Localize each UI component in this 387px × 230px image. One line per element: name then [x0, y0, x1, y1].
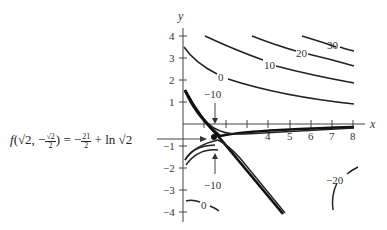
y-axis-label: y — [177, 9, 184, 23]
contour-0 — [184, 47, 217, 74]
contour-label-0-lower: 0 — [201, 199, 207, 211]
y-tick-3: 3 — [169, 52, 175, 64]
contour-20b — [308, 54, 354, 66]
saddle-point — [211, 134, 217, 140]
contour-label-30: 30 — [327, 39, 339, 51]
contour-minus20b — [347, 167, 358, 174]
fraction-sqrt2-over-2: √22 — [45, 133, 55, 150]
x-tick-7: 7 — [329, 130, 335, 142]
arrow-lower-head — [212, 153, 218, 159]
contour-label-minus10-lower: −10 — [204, 179, 222, 191]
contour-label-20: 20 — [296, 47, 308, 59]
fraction-21-over-2: 212 — [81, 133, 91, 150]
contour-label-0: 0 — [218, 71, 224, 83]
y-tick-1: 1 — [169, 96, 175, 108]
frac1-denominator: 2 — [45, 142, 55, 150]
contour-minus10-lower — [185, 140, 285, 213]
x-tick-8: 8 — [350, 130, 356, 142]
y-tick-4: 4 — [169, 30, 175, 42]
contour-label-minus20: −20 — [326, 174, 344, 186]
contour-0-lower — [186, 200, 200, 202]
contour-20 — [252, 36, 296, 51]
critical-value-annotation: f(√2, −√22) = −212 + ln √2 — [10, 132, 132, 150]
contour-label-10: 10 — [264, 59, 276, 71]
contour-10 — [205, 36, 263, 60]
x-axis-label: x — [369, 117, 376, 131]
y-tick-neg4: −4 — [163, 206, 175, 218]
contour-plot: x y 4 5 6 7 8 4 3 2 1 −1 −2 −3 −4 30 20 … — [0, 0, 387, 230]
contour-0b — [228, 79, 354, 104]
arg-close: ) = − — [56, 132, 82, 147]
y-tick-neg3: −3 — [163, 184, 175, 196]
arrow-upper-head — [212, 118, 218, 124]
arg-open: (√2, − — [14, 132, 46, 147]
x-tick-6: 6 — [308, 130, 314, 142]
y-tick-2: 2 — [169, 74, 175, 86]
contour-minus20 — [333, 183, 338, 210]
arrow-formula-head — [200, 136, 207, 142]
formula-tail: + ln √2 — [91, 132, 132, 147]
contour-30b — [340, 47, 354, 51]
contour-0-lower-b — [210, 206, 219, 211]
frac2-denominator: 2 — [81, 142, 91, 150]
y-tick-neg1: −1 — [163, 140, 175, 152]
contour-label-minus10-upper: −10 — [204, 88, 222, 100]
y-tick-neg2: −2 — [163, 162, 175, 174]
contour-10b — [276, 66, 354, 83]
